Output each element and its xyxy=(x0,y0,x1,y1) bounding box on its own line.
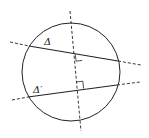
delta-extension-left xyxy=(10,42,29,46)
circle xyxy=(22,23,120,121)
line-delta: Δ xyxy=(10,36,141,65)
delta-label: Δ xyxy=(43,36,51,47)
delta-prime-extension-right xyxy=(117,82,140,85)
line-delta-prime: Δ′ xyxy=(12,82,140,100)
right-angle-mark-bottom xyxy=(76,81,83,88)
geometry-diagram: Δ Δ′ xyxy=(0,0,149,138)
delta-prime-label: Δ′ xyxy=(32,84,43,95)
delta-extension-right xyxy=(118,61,141,65)
perpendicular-bisector-dashed xyxy=(70,11,81,131)
delta-prime-extension-left xyxy=(12,97,28,100)
